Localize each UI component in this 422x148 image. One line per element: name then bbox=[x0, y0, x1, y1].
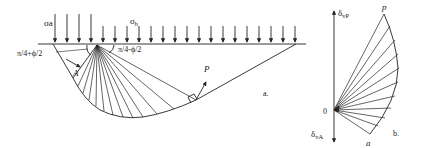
slip-line-diagram: σa σb π/4+ϕ/2 π/4-ϕ/2 A P a. bbox=[0, 0, 422, 148]
load-arrows-right bbox=[103, 26, 295, 42]
axis-label-top: δvP bbox=[338, 8, 350, 19]
load-label-right: σb bbox=[130, 16, 138, 27]
axis-label-bottom: δvA bbox=[311, 129, 324, 140]
load-arrows-left bbox=[55, 14, 91, 42]
load-label-left: σa bbox=[44, 18, 53, 28]
origin-label: 0 bbox=[323, 107, 327, 116]
angle-label-right: π/4-ϕ/2 bbox=[118, 45, 141, 54]
panel-a-label: a. bbox=[263, 89, 269, 98]
point-label-p: p bbox=[381, 2, 387, 12]
panel-a bbox=[38, 14, 306, 118]
pointer-arrow-A bbox=[66, 59, 80, 67]
point-label-A: A bbox=[72, 68, 79, 78]
passive-wedge-boundary bbox=[196, 44, 296, 100]
panel-b-label: b. bbox=[393, 129, 399, 138]
point-label-P: P bbox=[203, 64, 210, 74]
hodograph-fan-lines bbox=[334, 14, 399, 134]
point-label-a: a bbox=[366, 138, 371, 148]
angle-label-left: π/4+ϕ/2 bbox=[17, 49, 42, 58]
panel-b bbox=[334, 11, 399, 142]
